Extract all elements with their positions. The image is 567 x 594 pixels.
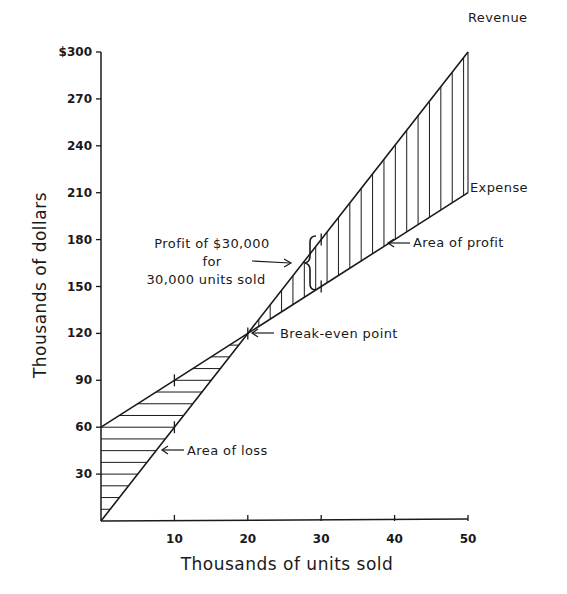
- y-tick-label: 90: [75, 373, 92, 387]
- expense-label: Expense: [470, 180, 528, 195]
- y-tick-label: 210: [67, 186, 92, 200]
- break-even-chart: 306090120150180210240270$3001020304050 T…: [0, 0, 567, 594]
- y-tick-label: $300: [59, 45, 92, 59]
- y-tick-label: 180: [67, 233, 92, 247]
- area-of-loss-label: Area of loss: [187, 443, 268, 458]
- y-tick-label: 240: [67, 139, 92, 153]
- profit-annotation: Profit of $30,000 for 30,000 units sold: [146, 236, 316, 290]
- break-even-label: Break-even point: [280, 326, 398, 341]
- profit-label-line1: Profit of $30,000: [154, 236, 269, 251]
- y-axis-title: Thousands of dollars: [30, 192, 50, 379]
- y-tick-label: 120: [67, 326, 92, 340]
- x-tick-label: 10: [166, 532, 183, 546]
- revenue-label: Revenue: [468, 10, 527, 25]
- profit-label-line3: 30,000 units sold: [146, 272, 265, 287]
- curly-brace-icon: [305, 236, 316, 290]
- x-tick-label: 20: [239, 532, 256, 546]
- area-of-profit-annotation: Area of profit: [388, 235, 504, 250]
- x-tick-label: 40: [386, 532, 403, 546]
- y-tick-label: 270: [67, 92, 92, 106]
- area-of-profit-label: Area of profit: [413, 235, 504, 250]
- profit-label-line2: for: [202, 254, 221, 269]
- expense-line: [101, 193, 468, 428]
- x-tick-label: 50: [460, 532, 477, 546]
- x-axis-title: Thousands of units sold: [180, 554, 394, 574]
- x-tick-label: 30: [313, 532, 330, 546]
- area-of-loss-annotation: Area of loss: [162, 443, 268, 458]
- y-tick-label: 30: [75, 467, 92, 481]
- break-even-annotation: Break-even point: [252, 326, 398, 341]
- x-axis: [101, 519, 468, 521]
- y-tick-label: 150: [67, 280, 92, 294]
- y-tick-label: 60: [75, 420, 92, 434]
